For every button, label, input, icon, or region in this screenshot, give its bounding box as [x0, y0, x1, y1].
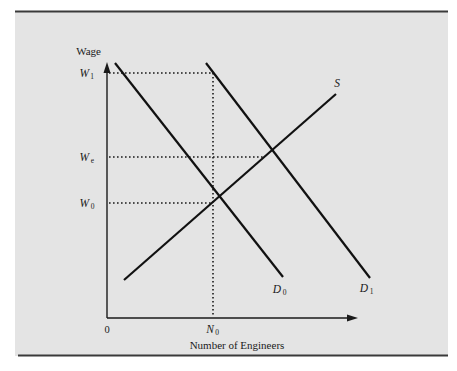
y-axis-title: Wage	[76, 45, 101, 57]
we-label-main: W	[79, 151, 90, 163]
w0-label-sub: 0	[91, 202, 95, 211]
d1-label-main: D	[359, 282, 369, 294]
chart-svg: Wage W 1 W e W 0 S D 0 D 1 0 N 0 Numbe	[0, 0, 457, 371]
origin-label: 0	[104, 324, 109, 335]
n0-label-main: N	[205, 323, 215, 335]
labor-market-figure: Wage W 1 W e W 0 S D 0 D 1 0 N 0 Numbe	[0, 0, 457, 371]
supply-curve-label: S	[334, 77, 340, 89]
n0-label-sub: 0	[215, 328, 219, 337]
figure-panel	[15, 11, 448, 356]
d0-label-main: D	[272, 283, 282, 295]
w0-label-main: W	[79, 197, 90, 209]
x-axis-title: Number of Engineers	[190, 339, 285, 351]
w1-label-main: W	[79, 67, 90, 79]
d1-label-sub: 1	[370, 287, 374, 296]
d0-label-sub: 0	[283, 288, 287, 297]
w1-label-sub: 1	[90, 72, 94, 81]
